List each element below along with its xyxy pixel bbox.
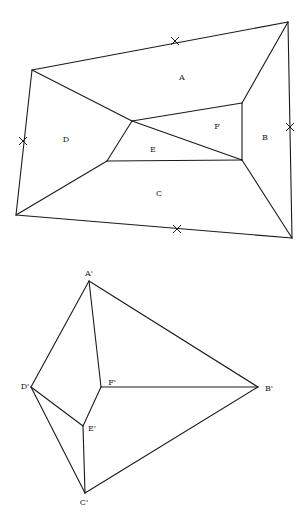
dual-edge <box>89 281 258 387</box>
edge-bl-i_bot_left <box>16 161 107 215</box>
x-mark-icon <box>171 37 179 45</box>
dual-edge <box>83 387 101 426</box>
dual-edge <box>85 387 258 493</box>
face-label-b: B <box>262 134 268 142</box>
dual-edge <box>89 281 101 387</box>
node-label-f-prime: F' <box>108 379 116 387</box>
x-mark-icon <box>19 137 27 145</box>
edge-tl-i_left <box>32 70 132 121</box>
dual-edge <box>83 426 85 493</box>
face-label-c: C <box>156 190 162 198</box>
edge-br-bl <box>16 215 292 238</box>
node-label-b-prime: B' <box>265 385 273 393</box>
dual-edge <box>31 281 89 387</box>
node-label-c-prime: C' <box>80 499 88 507</box>
node-label-d-prime: D' <box>21 383 30 391</box>
face-label-d: D <box>63 136 69 144</box>
edge-tr-br <box>288 22 292 238</box>
edge-i_left-i_top_right <box>132 103 242 121</box>
edge-i_left-i_bot_left <box>107 121 132 161</box>
node-label-a-prime: A' <box>85 270 93 278</box>
dual-edge <box>31 387 85 493</box>
edge-br-i_bot_right <box>242 160 292 238</box>
face-label-e: E <box>150 146 156 154</box>
face-label-f: F <box>214 123 220 131</box>
face-label-a: A <box>179 74 185 82</box>
node-label-e-prime: E' <box>88 425 96 433</box>
edge-tl-tr <box>32 22 288 70</box>
edge-i_left-i_bot_right <box>132 121 242 160</box>
planar-subdivision-figure <box>0 0 308 512</box>
dual-edge <box>31 387 83 426</box>
diagram-canvas: ABCDEFA'B'C'D'E'F' <box>0 0 308 512</box>
edge-tr-i_top_right <box>242 22 288 103</box>
edge-i_bot_left-i_bot_right <box>107 160 242 161</box>
